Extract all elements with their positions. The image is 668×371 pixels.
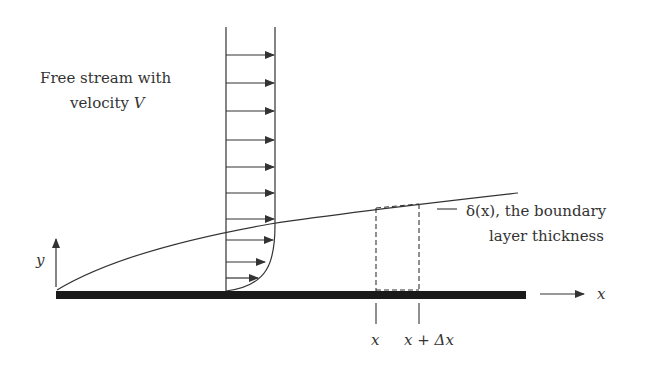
y-axis-label: y [35,251,45,269]
free-stream-label: Free stream with velocity V [40,69,171,112]
x-tick-label: x [371,331,380,349]
free-stream-line2: velocity V [69,94,147,112]
free-stream-line1: Free stream with [40,69,171,87]
velocity-profile [226,27,275,291]
delta-label-line2: layer thickness [489,227,604,245]
boundary-layer-diagram: Free stream with velocity V y x x x + [0,0,668,371]
x-axis-label: x [597,285,606,303]
x-dx-tick-label: x + Δx [404,331,454,349]
profile-freestream-line [226,27,275,291]
control-volume [376,204,419,291]
delta-label-line1: δ(x), the boundary [466,202,607,220]
flat-plate [56,291,526,299]
boundary-layer-curve [57,193,518,290]
